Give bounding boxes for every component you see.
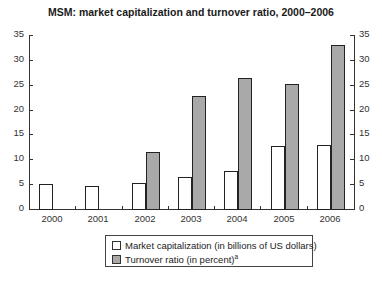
x-tick	[260, 206, 261, 210]
y-axis-label-left: 0	[4, 202, 24, 213]
x-axis-label: 2001	[78, 213, 118, 224]
y-tick-right	[350, 110, 354, 111]
x-tick	[122, 206, 123, 210]
legend-swatch-white-icon	[112, 241, 121, 250]
y-tick-right	[350, 209, 354, 210]
legend: Market capitalization (in billions of US…	[105, 235, 313, 267]
legend-item-market-cap: Market capitalization (in billions of US…	[112, 240, 317, 251]
y-tick-left	[29, 159, 33, 160]
y-axis-label-right: 30	[359, 53, 379, 64]
x-tick	[214, 206, 215, 210]
x-axis-label: 2000	[32, 213, 72, 224]
x-axis-label: 2006	[310, 213, 350, 224]
bar-market-cap	[178, 177, 192, 210]
y-tick-right	[350, 134, 354, 135]
y-axis-label-right: 0	[359, 202, 379, 213]
y-axis-label-left: 10	[4, 152, 24, 163]
legend-item-turnover: Turnover ratio (in percent)a	[112, 253, 238, 265]
bar-turnover	[146, 152, 160, 210]
y-axis-label-right: 35	[359, 28, 379, 39]
y-tick-right	[350, 159, 354, 160]
bar-market-cap	[271, 146, 285, 210]
bar-turnover	[331, 45, 345, 210]
y-axis-label-right: 25	[359, 78, 379, 89]
bar-market-cap	[85, 186, 99, 210]
y-axis-label-left: 25	[4, 78, 24, 89]
y-tick-left	[29, 35, 33, 36]
y-tick-left	[29, 134, 33, 135]
y-axis-label-left: 30	[4, 53, 24, 64]
y-axis-label-left: 20	[4, 103, 24, 114]
y-tick-left	[29, 184, 33, 185]
x-tick	[168, 206, 169, 210]
bar-turnover	[192, 96, 206, 210]
y-tick-right	[350, 85, 354, 86]
y-tick-left	[29, 110, 33, 111]
y-axis-label-right: 10	[359, 152, 379, 163]
y-axis-label-right: 20	[359, 103, 379, 114]
y-axis-label-right: 5	[359, 177, 379, 188]
bar-market-cap	[224, 171, 238, 210]
x-axis-label: 2002	[125, 213, 165, 224]
y-tick-left	[29, 60, 33, 61]
bar-market-cap	[317, 145, 331, 210]
x-tick	[75, 206, 76, 210]
bar-market-cap	[132, 183, 146, 210]
y-axis-label-left: 35	[4, 28, 24, 39]
legend-label: Market capitalization (in billions of US…	[125, 240, 317, 251]
legend-swatch-gray-icon	[112, 255, 121, 264]
y-tick-right	[350, 184, 354, 185]
x-axis-label: 2003	[171, 213, 211, 224]
y-tick-left	[29, 85, 33, 86]
bar-market-cap	[39, 184, 53, 210]
y-tick-right	[350, 60, 354, 61]
legend-label: Turnover ratio (in percent)	[125, 254, 234, 265]
x-axis-label: 2004	[217, 213, 257, 224]
chart-title: MSM: market capitalization and turnover …	[0, 6, 382, 18]
plot-area	[29, 35, 355, 210]
bar-turnover	[285, 84, 299, 210]
y-axis-label-left: 15	[4, 127, 24, 138]
x-tick	[307, 206, 308, 210]
x-axis-label: 2005	[264, 213, 304, 224]
y-axis-label-right: 15	[359, 127, 379, 138]
y-axis-label-left: 5	[4, 177, 24, 188]
footnote-marker: a	[234, 253, 238, 260]
y-tick-left	[29, 209, 33, 210]
bar-turnover	[238, 78, 252, 210]
y-tick-right	[350, 35, 354, 36]
